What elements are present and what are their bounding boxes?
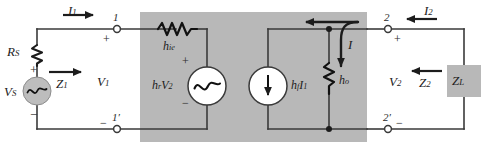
label-i1: I1	[68, 4, 77, 17]
label-hf-i1: hfI1	[291, 79, 307, 91]
controlled-voltage-source-plus: +	[182, 55, 189, 67]
label-branch-current-i: I	[348, 38, 352, 51]
label-rs: RS	[7, 45, 19, 58]
terminal-2-prime-polarity-minus: −	[396, 117, 403, 129]
terminal-2-polarity-plus: +	[394, 33, 401, 45]
label-v1: V1	[97, 75, 109, 88]
polarity-plus-vs: +	[30, 63, 37, 76]
terminal-1-prime-node	[114, 126, 121, 133]
label-zl: ZL	[452, 74, 464, 87]
terminal-1-polarity-plus: +	[103, 33, 110, 45]
label-z2: Z2	[419, 76, 431, 89]
label-vs: VS	[4, 85, 16, 98]
polarity-minus-vs: −	[30, 108, 37, 121]
terminal-2-prime-label: 2′	[383, 112, 391, 123]
label-hr-v2: hrV2	[152, 79, 173, 91]
label-i2: I2	[424, 4, 433, 17]
terminal-2-node	[385, 26, 392, 33]
label-v2: V2	[389, 75, 401, 88]
circuit-schematic-canvas	[0, 0, 491, 154]
label-hie: hie	[163, 40, 175, 52]
terminal-2-label: 2	[384, 12, 390, 23]
terminal-2-prime-node	[385, 126, 392, 133]
circuit-diagram-figure: RS VS + − Z1 I1 V1 1 + 1′ − hie hrV2 + −…	[0, 0, 491, 154]
terminal-1-prime-polarity-minus: −	[100, 117, 107, 129]
node-dot-ho-top	[326, 26, 332, 32]
label-z1: Z1	[56, 77, 68, 90]
terminal-1-label: 1	[113, 12, 119, 23]
controlled-voltage-source-minus: −	[182, 97, 189, 109]
terminal-1-prime-label: 1′	[112, 112, 120, 123]
node-dot-ho-bottom	[326, 126, 332, 132]
terminal-1-node	[114, 26, 121, 33]
label-ho: ho	[339, 74, 349, 86]
